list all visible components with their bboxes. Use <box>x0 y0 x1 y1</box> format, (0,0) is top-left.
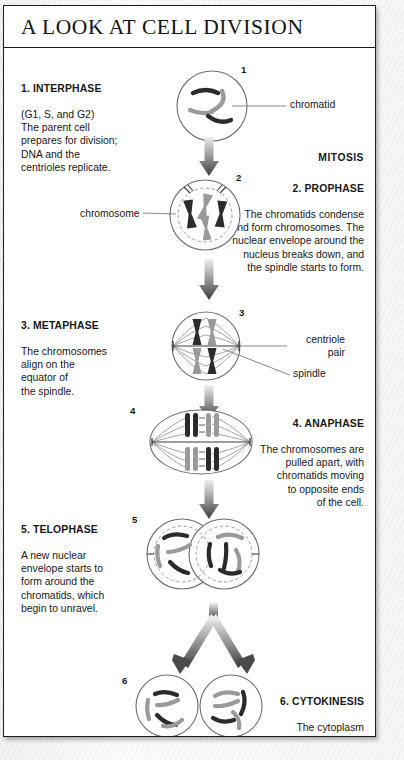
chromatid-leader-line <box>232 101 288 111</box>
mitosis-bracket-label: MITOSIS <box>318 152 364 163</box>
stage-1-heading: 1. INTERPHASE <box>21 83 101 94</box>
stage-1-text: 1. INTERPHASE (G1, S, and G2) The parent… <box>21 69 171 174</box>
stage-4-body: The chromosomes are pulled apart, with c… <box>260 444 364 507</box>
callout-chromosome: chromosome <box>80 208 140 221</box>
arrow-stage-2-to-3 <box>196 259 222 301</box>
stage-3-body: The chromosomes align on the equator of … <box>21 346 107 396</box>
stage-5-heading: 5. TELOPHASE <box>21 524 98 535</box>
stage-3-text: 3. METAPHASE The chromosomes align on th… <box>21 306 171 398</box>
stage-5-body: A new nuclear envelope starts to form ar… <box>21 550 104 613</box>
stage-2-body: The chromatids condense and form chromos… <box>231 209 364 272</box>
daughter-cell-outline-right <box>189 519 259 589</box>
callout-spindle: spindle <box>293 368 326 381</box>
title-divider <box>4 47 375 48</box>
spindle-leader-line <box>223 349 291 377</box>
stage-4-heading: 4. ANAPHASE <box>293 418 364 429</box>
chromosome-leader-line <box>143 207 177 219</box>
stage-4-cell-figure <box>144 406 258 478</box>
stage-2-heading: 2. PROPHASE <box>292 183 364 194</box>
stage-6-heading: 6. CYTOKINESIS <box>280 696 364 707</box>
stage-1-body: (G1, S, and G2) The parent cell prepares… <box>21 109 117 172</box>
stage-5-cell-figure <box>144 514 262 596</box>
stage-6-body: The cytoplasm divides to leave a pair of… <box>292 722 364 737</box>
callout-chromatid: chromatid <box>290 99 335 112</box>
page-title: A LOOK AT CELL DIVISION <box>21 15 304 40</box>
stage-6-cell-figure <box>135 670 263 737</box>
stage-5-number: 5 <box>132 514 137 525</box>
stage-6-number: 6 <box>122 675 127 686</box>
diagram-panel: A LOOK AT CELL DIVISION MITOSIS 1. INTER… <box>3 5 376 737</box>
stage-4-number: 4 <box>130 405 135 416</box>
stage-3-heading: 3. METAPHASE <box>21 320 99 331</box>
scanned-page: A LOOK AT CELL DIVISION MITOSIS 1. INTER… <box>0 0 404 760</box>
